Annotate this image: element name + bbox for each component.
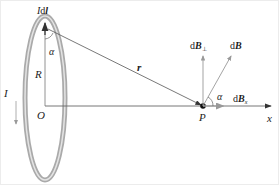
label-O: O [37,109,45,121]
label-P: P [198,111,206,123]
label-x: x [266,112,272,124]
label-dB: dB [230,40,242,51]
label-dB-perp: dB⊥ [190,40,207,52]
diagram-canvas: Idl α R I O r P x α dB⊥ dB dBx [0,0,279,185]
current-loop-diagram: Idl α R I O r P x α dB⊥ dB dBx [1,1,279,185]
label-I: I [3,87,9,99]
label-alpha-top: α [49,46,55,57]
angle-arc-p [208,97,213,106]
label-R: R [34,68,42,80]
label-idl: Idl [36,5,48,16]
label-dB-x: dBx [233,93,248,105]
label-r: r [137,61,142,73]
position-vector-r [48,29,201,105]
label-alpha-p: α [217,91,223,102]
angle-arc-top [45,33,53,39]
